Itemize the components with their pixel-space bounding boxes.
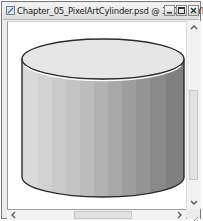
minimize-icon [165,6,174,15]
vertical-scroll-thumb[interactable] [189,90,198,180]
maximize-button[interactable] [176,5,187,16]
document-window: Chapter_05_PixelArtCylinder.psd @ 300% (… [1,1,201,219]
image-canvas[interactable] [7,21,186,209]
scroll-left-arrow-icon[interactable] [9,210,19,220]
photoshop-document-icon [6,6,15,15]
minimize-button[interactable] [164,5,175,16]
scroll-right-arrow-icon[interactable] [174,210,184,220]
cylinder-top-face [22,39,184,79]
scroll-up-arrow-icon[interactable] [189,23,199,33]
scroll-down-arrow-icon[interactable] [189,197,199,207]
resize-grip-icon [187,214,200,221]
horizontal-scrollbar[interactable] [7,209,186,220]
vertical-scrollbar[interactable] [186,21,201,209]
close-button[interactable] [188,5,199,16]
cylinder-artwork [8,22,186,209]
title-bar[interactable]: Chapter_05_PixelArtCylinder.psd @ 300% (… [3,3,199,20]
maximize-icon [177,6,186,15]
close-icon [189,6,198,15]
horizontal-scroll-thumb[interactable] [74,211,132,219]
resize-grip[interactable] [187,209,200,219]
